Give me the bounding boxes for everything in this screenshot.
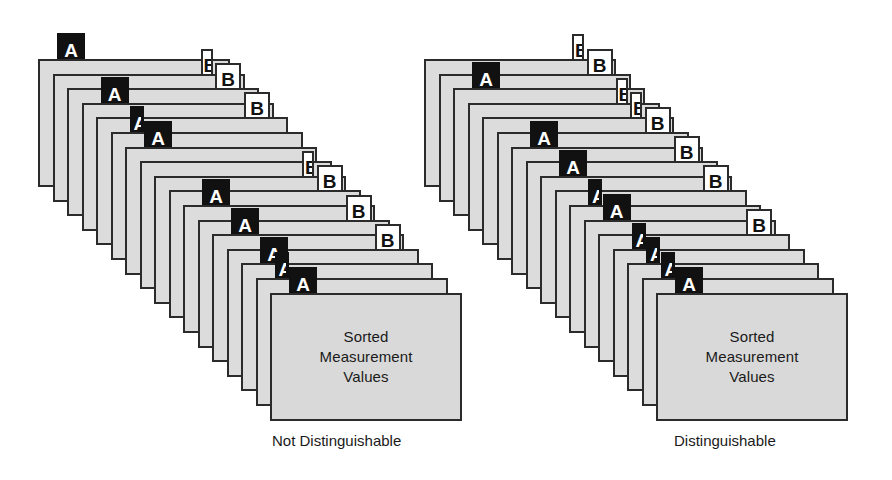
card-stack-distinguishable: BBABBBABABAABAAAASortedMeasurementValues… [408, 0, 854, 480]
front-card-label-line: Values [658, 367, 846, 387]
stacked-cards-diagram: ABBABAABBABABAAASortedMeasurementValues … [0, 0, 892, 480]
front-card-label: SortedMeasurementValues [272, 327, 460, 387]
stack-caption-not-distinguishable: Not Distinguishable [272, 432, 401, 449]
card-stack-not-distinguishable: ABBABAABBABABAAASortedMeasurementValues … [0, 0, 446, 480]
front-card-label-line: Measurement [658, 347, 846, 367]
front-card-label-line: Sorted [272, 327, 460, 347]
card-layer: BBABBBABABAABAAAASortedMeasurementValues [408, 0, 854, 480]
front-card: SortedMeasurementValues [656, 293, 848, 421]
front-card-label-line: Measurement [272, 347, 460, 367]
card-layer: ABBABAABBABABAAASortedMeasurementValues [0, 0, 446, 480]
front-card-label: SortedMeasurementValues [658, 327, 846, 387]
front-card: SortedMeasurementValues [270, 293, 462, 421]
stack-caption-distinguishable: Distinguishable [674, 432, 776, 449]
front-card-label-line: Sorted [658, 327, 846, 347]
front-card-label-line: Values [272, 367, 460, 387]
